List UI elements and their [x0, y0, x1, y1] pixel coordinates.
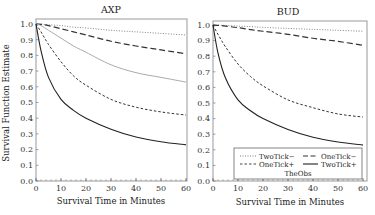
y-tick-label: 0.2 [20, 145, 33, 154]
x-tick-label: 10 [56, 184, 66, 193]
x-tick-label: 50 [333, 184, 343, 193]
figure: Survival Function Estimate AXP 0.00.10.2… [0, 0, 375, 215]
curve-twotick [36, 24, 186, 145]
x-ticks-bud: 0102030405060 [210, 178, 368, 193]
panel-bud: BUD 0.00.10.20.30.40.50.60.70.80.91.0 01… [197, 6, 368, 207]
x-tick-label: 40 [131, 184, 141, 193]
legend-label-twotick-plus: TwoTick+ [321, 161, 357, 169]
y-tick-label: 0.9 [197, 36, 210, 45]
y-tick-label: 0.4 [20, 114, 33, 123]
y-tick-label: 1.0 [20, 20, 33, 29]
curves-axp [36, 24, 186, 145]
y-tick-label: 0.6 [197, 83, 210, 92]
curve-onetick [213, 25, 363, 117]
x-tick-label: 40 [308, 184, 318, 193]
curve-onetick [36, 24, 186, 54]
x-tick-label: 50 [156, 184, 166, 193]
y-axis-label: Survival Function Estimate [1, 44, 11, 161]
legend-label-onetick-minus: OneTick− [321, 153, 356, 161]
x-tick-label: 30 [106, 184, 116, 193]
curves-bud [213, 25, 363, 145]
y-tick-label: 0.7 [20, 67, 33, 76]
panel-title-bud: BUD [277, 6, 300, 17]
legend-label-theobs: TheObs [284, 170, 312, 178]
x-tick-label: 60 [181, 184, 191, 193]
y-tick-label: 0.3 [197, 130, 210, 139]
y-tick-label: 0.8 [20, 51, 33, 60]
curve-twotick [36, 24, 186, 35]
y-tick-label: 0.2 [197, 146, 210, 155]
panel-axp: AXP 0.00.10.20.30.40.50.60.70.80.91.0 01… [20, 4, 191, 206]
x-axis-label-axp: Survival Time in Minutes [57, 196, 165, 206]
y-tick-label: 0.5 [197, 99, 210, 108]
y-tick-label: 0.8 [197, 52, 210, 61]
x-tick-label: 20 [81, 184, 91, 193]
x-ticks-axp: 0102030405060 [33, 178, 191, 193]
y-tick-label: 0.5 [20, 98, 33, 107]
y-tick-label: 0.1 [20, 161, 33, 170]
y-tick-label: 0.7 [197, 68, 210, 77]
x-tick-label: 30 [283, 184, 293, 193]
x-tick-label: 60 [358, 184, 368, 193]
y-tick-label: 0.0 [197, 177, 210, 186]
y-tick-label: 0.1 [197, 161, 210, 170]
y-tick-label: 0.6 [20, 83, 33, 92]
curve-onetick [213, 25, 363, 45]
curve-onetick [36, 24, 186, 115]
x-tick-label: 0 [33, 184, 38, 193]
curve-twotick [213, 25, 363, 31]
panel-title-axp: AXP [100, 4, 122, 15]
y-tick-label: 0.9 [20, 36, 33, 45]
y-tick-label: 0.3 [20, 130, 33, 139]
x-tick-label: 10 [233, 184, 243, 193]
y-tick-label: 0.0 [20, 177, 33, 186]
legend-label-twotick-minus: TwoTick− [259, 153, 295, 161]
legend-label-onetick-plus: OneTick+ [259, 161, 294, 169]
legend: TwoTick− OneTick− OneTick+ TwoTick+ TheO… [234, 148, 362, 179]
curve-theobs [36, 24, 186, 82]
curve-twotick [213, 25, 363, 145]
x-axis-label-bud: Survival Time in Minutes [236, 197, 344, 207]
y-tick-label: 1.0 [197, 21, 210, 30]
x-tick-label: 20 [258, 184, 268, 193]
x-tick-label: 0 [210, 184, 215, 193]
y-tick-label: 0.4 [197, 114, 210, 123]
